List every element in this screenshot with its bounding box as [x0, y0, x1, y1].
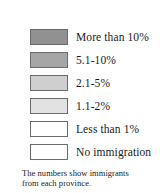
legend-entry: No immigration [0, 140, 165, 163]
legend-entry: More than 10% [0, 25, 165, 48]
swatch-5-1-to-10-percent [30, 52, 68, 68]
legend-entry-list: More than 10% 5.1-10% 2.1-5% 1.1-2% Less… [0, 25, 165, 163]
swatch-more-than-10-percent [30, 29, 68, 45]
legend-entry: Less than 1% [0, 117, 165, 140]
swatch-no-immigration [30, 144, 68, 160]
legend-entry-label: 2.1-5% [76, 77, 110, 89]
legend-entry: 2.1-5% [0, 71, 165, 94]
legend-entry-label: 5.1-10% [76, 54, 116, 66]
swatch-1-1-to-2-percent [30, 98, 68, 114]
legend-caption: The numbers show immigrants from each pr… [22, 168, 162, 188]
map-legend: More than 10% 5.1-10% 2.1-5% 1.1-2% Less… [0, 0, 165, 193]
swatch-less-than-1-percent [30, 121, 68, 137]
legend-caption-line-2: from each province. [22, 178, 162, 188]
legend-entry: 1.1-2% [0, 94, 165, 117]
legend-entry-label: No immigration [76, 146, 151, 158]
swatch-2-1-to-5-percent [30, 75, 68, 91]
legend-caption-line-1: The numbers show immigrants [22, 168, 162, 178]
legend-entry-label: 1.1-2% [76, 100, 110, 112]
legend-entry-label: More than 10% [76, 31, 149, 43]
legend-entry: 5.1-10% [0, 48, 165, 71]
legend-entry-label: Less than 1% [76, 123, 139, 135]
